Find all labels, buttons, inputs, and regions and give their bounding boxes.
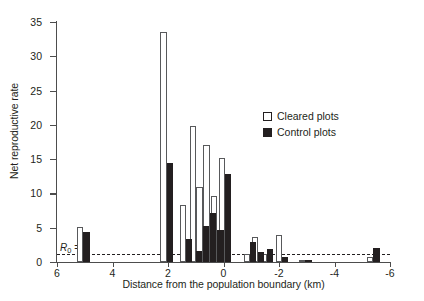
y-tick-label: 35 bbox=[0, 16, 42, 28]
y-tick bbox=[50, 193, 56, 194]
legend: Cleared plots Control plots bbox=[263, 108, 339, 140]
bar-control bbox=[83, 232, 89, 262]
filled-square-icon bbox=[263, 128, 272, 137]
legend-item-control: Control plots bbox=[263, 124, 339, 140]
figure: Net reproductive rate 05101520253035 642… bbox=[0, 0, 424, 301]
bar-control bbox=[186, 239, 192, 262]
bar-control bbox=[225, 174, 231, 262]
y-tick-label: 5 bbox=[0, 222, 42, 234]
bar-control bbox=[305, 260, 311, 262]
bar-control bbox=[196, 251, 202, 262]
bar-control bbox=[250, 242, 256, 262]
plot-area bbox=[57, 22, 390, 262]
bar-control bbox=[210, 213, 216, 262]
y-tick bbox=[50, 56, 56, 57]
y-tick bbox=[50, 91, 56, 92]
y-tick bbox=[50, 159, 56, 160]
bar-control bbox=[203, 226, 209, 262]
y-tick-label: 15 bbox=[0, 153, 42, 165]
y-tick-label: 0 bbox=[0, 256, 42, 268]
y-tick-label: 30 bbox=[0, 50, 42, 62]
legend-label-control: Control plots bbox=[277, 126, 336, 138]
legend-item-cleared: Cleared plots bbox=[263, 108, 339, 124]
bar-control bbox=[258, 252, 264, 262]
open-square-icon bbox=[263, 112, 272, 121]
legend-label-cleared: Cleared plots bbox=[277, 110, 339, 122]
bar-control bbox=[217, 230, 223, 262]
y-tick bbox=[50, 262, 56, 263]
y-tick-label: 25 bbox=[0, 85, 42, 97]
bar-control bbox=[167, 163, 173, 262]
y-tick bbox=[50, 228, 56, 229]
bar-control bbox=[373, 248, 379, 262]
r0-subscript: 0 bbox=[67, 246, 71, 255]
y-tick-label: 20 bbox=[0, 119, 42, 131]
bar-control bbox=[282, 257, 288, 262]
x-axis-title: Distance from the population boundary (k… bbox=[57, 278, 390, 290]
y-tick-label: 10 bbox=[0, 187, 42, 199]
y-tick bbox=[50, 125, 56, 126]
bar-control bbox=[267, 249, 273, 262]
y-tick bbox=[50, 22, 56, 23]
